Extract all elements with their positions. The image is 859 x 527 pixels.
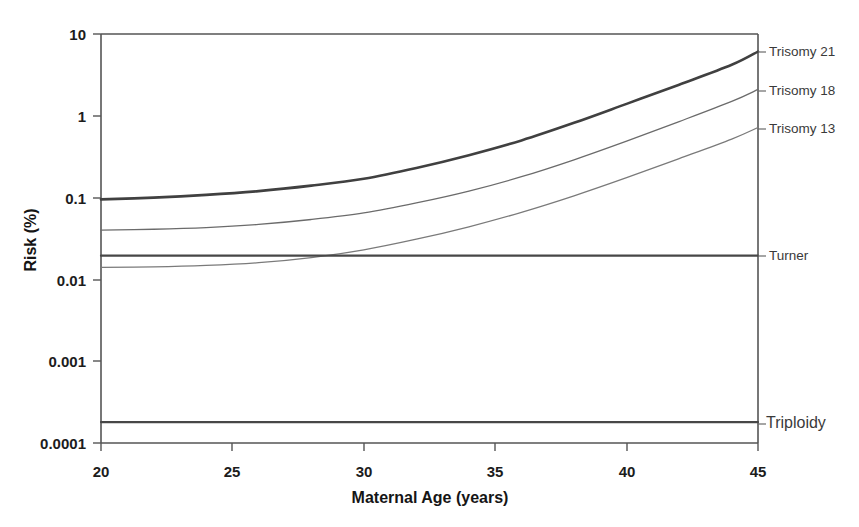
y-tick-label-1: 1 <box>78 108 86 125</box>
y-tick-label-0.1: 0.1 <box>65 190 86 207</box>
x-tick-label-20: 20 <box>93 463 110 480</box>
y-tick-label-10: 10 <box>69 26 86 43</box>
x-axis-title: Maternal Age (years) <box>352 489 509 506</box>
y-axis-title: Risk (%) <box>22 208 39 271</box>
chart-container: 10 1 0.1 0.01 0.001 0.0001 20 25 30 35 4… <box>0 0 859 527</box>
x-tick-label-30: 30 <box>356 463 373 480</box>
series-label-trisomy-21: Trisomy 21 <box>769 44 835 59</box>
series-label-trisomy-18: Trisomy 18 <box>769 83 835 98</box>
series-label-trisomy-13: Trisomy 13 <box>769 121 835 136</box>
y-tick-label-0.0001: 0.0001 <box>40 435 86 452</box>
y-tick-label-0.01: 0.01 <box>57 272 86 289</box>
series-label-turner: Turner <box>769 248 809 263</box>
x-tick-label-35: 35 <box>487 463 504 480</box>
chart-background <box>0 0 859 527</box>
x-tick-label-25: 25 <box>224 463 241 480</box>
y-tick-label-0.001: 0.001 <box>48 353 86 370</box>
x-tick-label-40: 40 <box>619 463 636 480</box>
x-tick-label-45: 45 <box>750 463 767 480</box>
risk-vs-maternal-age-chart: 10 1 0.1 0.01 0.001 0.0001 20 25 30 35 4… <box>0 0 859 527</box>
series-label-triploidy: Triploidy <box>766 414 826 431</box>
